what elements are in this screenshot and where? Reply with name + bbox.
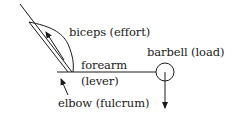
fulcrum-arrow-icon bbox=[61, 79, 68, 95]
upper-arm-inner-line bbox=[29, 22, 68, 72]
barbell-label: barbell (load) bbox=[147, 47, 224, 59]
biceps-label: biceps (effort) bbox=[69, 27, 150, 39]
lever-label: (lever) bbox=[81, 76, 119, 88]
elbow-label: elbow (fulcrum) bbox=[58, 98, 149, 110]
forearm-label: forearm bbox=[81, 60, 127, 72]
lever-diagram: biceps (effort) forearm (lever) elbow (f… bbox=[0, 0, 235, 118]
